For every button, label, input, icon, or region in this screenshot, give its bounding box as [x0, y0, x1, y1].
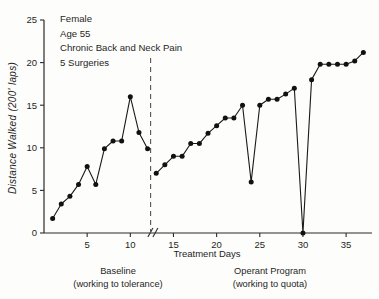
- data-point: [335, 62, 340, 67]
- baseline-series-points: [50, 94, 150, 221]
- data-point: [119, 138, 124, 143]
- data-point: [292, 86, 297, 91]
- data-point: [93, 182, 98, 187]
- data-point: [171, 154, 176, 159]
- line-chart: 0510152025 5101520253035 Treatment Days …: [0, 0, 379, 299]
- y-tick-label: 25: [26, 14, 37, 25]
- data-point: [223, 115, 228, 120]
- data-point: [206, 131, 211, 136]
- data-point: [300, 231, 305, 236]
- data-point: [283, 92, 288, 97]
- data-point: [326, 62, 331, 67]
- baseline-caption-subtitle: (working to tolerance): [73, 279, 162, 289]
- y-tick-label: 0: [32, 227, 37, 238]
- data-point: [309, 77, 314, 82]
- data-point: [361, 50, 366, 55]
- data-point: [249, 179, 254, 184]
- x-axis-ticks: [87, 233, 346, 237]
- annotation-line: 5 Surgeries: [60, 57, 109, 68]
- x-tick-label: 25: [255, 239, 266, 250]
- data-point: [128, 94, 133, 99]
- data-point: [76, 182, 81, 187]
- data-point: [50, 216, 55, 221]
- baseline-caption-title: Baseline: [100, 266, 136, 276]
- data-point: [180, 154, 185, 159]
- data-point: [231, 115, 236, 120]
- y-axis-tick-labels: 0510152025: [26, 14, 37, 238]
- chart-figure: 0510152025 5101520253035 Treatment Days …: [0, 0, 379, 299]
- x-tick-label: 10: [125, 239, 136, 250]
- data-point: [136, 130, 141, 135]
- data-point: [154, 171, 159, 176]
- data-point: [197, 141, 202, 146]
- x-tick-label: 30: [298, 239, 309, 250]
- y-tick-label: 10: [26, 142, 37, 153]
- patient-annotation-block: FemaleAge 55Chronic Back and Neck Pain5 …: [60, 13, 182, 68]
- data-point: [85, 164, 90, 169]
- data-point: [188, 141, 193, 146]
- data-point: [59, 202, 64, 207]
- data-point: [162, 162, 167, 167]
- data-point: [214, 123, 219, 128]
- baseline-series-line: [53, 97, 148, 219]
- x-tick-label: 5: [85, 239, 90, 250]
- data-point: [145, 146, 150, 151]
- annotation-line: Age 55: [60, 28, 90, 39]
- data-point: [318, 62, 323, 67]
- y-tick-label: 5: [32, 185, 37, 196]
- operant-series-line: [156, 52, 363, 233]
- data-point: [344, 62, 349, 67]
- annotation-line: Chronic Back and Neck Pain: [60, 42, 182, 53]
- data-point: [240, 103, 245, 108]
- data-point: [67, 194, 72, 199]
- y-axis-title: Distance Walked (200' laps): [7, 62, 18, 194]
- data-point: [111, 138, 116, 143]
- data-point: [257, 103, 262, 108]
- operant-caption-title: Operant Program: [234, 266, 306, 276]
- data-point: [266, 97, 271, 102]
- data-point: [275, 97, 280, 102]
- y-tick-label: 15: [26, 100, 37, 111]
- data-point: [102, 146, 107, 151]
- data-point: [352, 58, 357, 63]
- x-tick-label: 35: [341, 239, 352, 250]
- operant-caption-subtitle: (working to quota): [233, 279, 307, 289]
- y-tick-label: 20: [26, 57, 37, 68]
- operant-series-points: [154, 50, 366, 236]
- x-axis-title: Treatment Days: [173, 248, 240, 259]
- annotation-line: Female: [60, 13, 92, 24]
